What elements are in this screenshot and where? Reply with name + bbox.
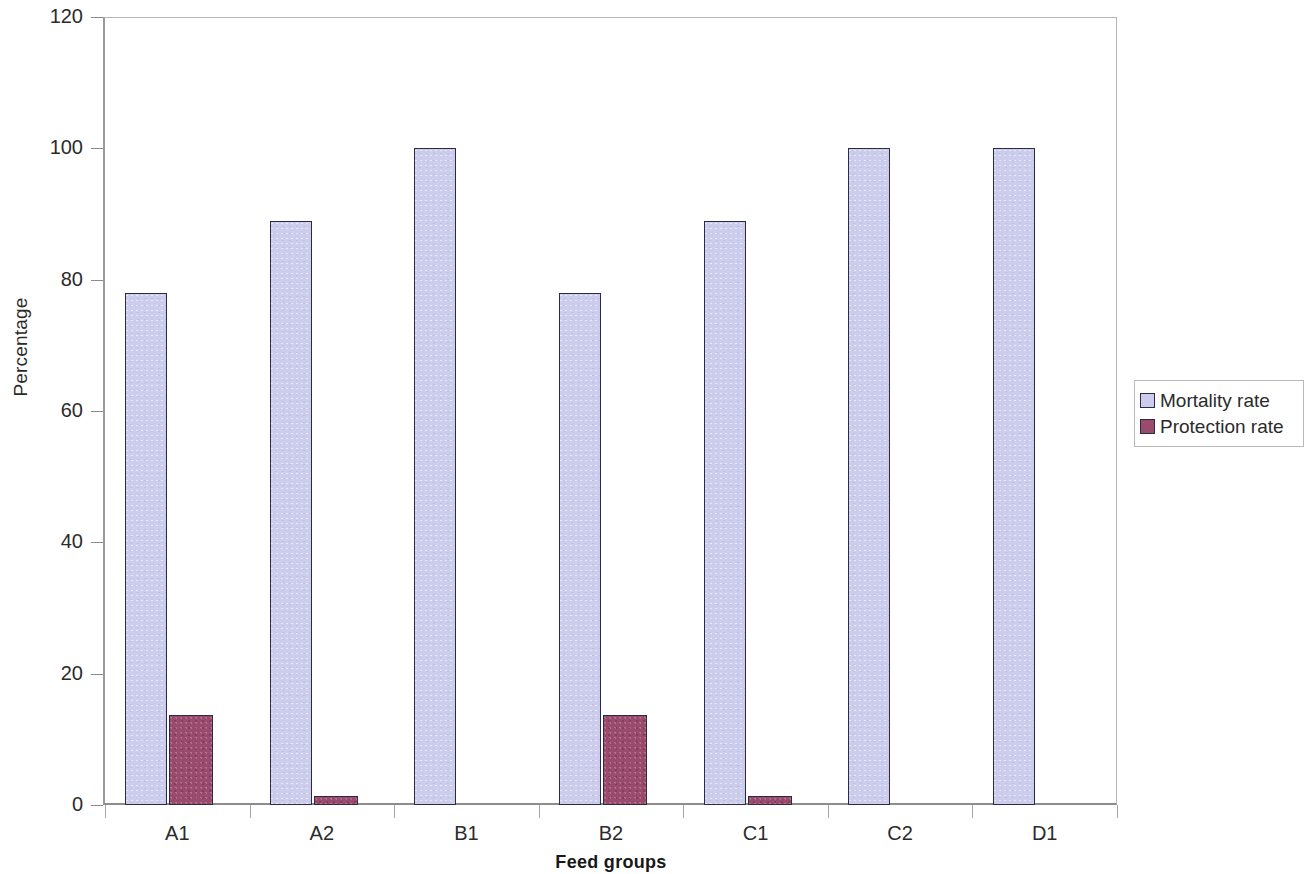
- x-axis-tick-label-a1: A1: [117, 822, 237, 845]
- y-axis-tick-label: 100: [23, 137, 83, 157]
- y-axis-tick-mark: [91, 17, 103, 18]
- x-axis-tick-mark: [250, 805, 251, 818]
- y-axis-tick-mark: [91, 411, 103, 412]
- bar-group: [250, 17, 395, 805]
- y-axis-tick-mark: [91, 674, 103, 675]
- bar-protection-b2: [603, 715, 647, 805]
- bar-mortality-d1: [993, 148, 1035, 805]
- x-axis-tick-labels: A1A2B1B2C1C2D1: [105, 822, 1117, 852]
- legend-item: Mortality rate: [1140, 387, 1299, 413]
- x-axis-tick-mark: [394, 805, 395, 818]
- x-axis-tick-label-d1: D1: [985, 822, 1105, 845]
- legend-item: Protection rate: [1140, 413, 1299, 439]
- legend-item-label: Protection rate: [1160, 417, 1284, 436]
- y-axis-tick-label: 120: [23, 6, 83, 26]
- y-axis-tick-label: 40: [23, 531, 83, 551]
- bar-mortality-b2: [559, 293, 601, 805]
- y-axis-tick-label: 0: [23, 794, 83, 814]
- bar-group: [539, 17, 684, 805]
- bar-group: [105, 17, 250, 805]
- bar-group: [394, 17, 539, 805]
- bar-protection-a2: [314, 796, 358, 805]
- bar-group: [683, 17, 828, 805]
- y-axis-tick-label: 20: [23, 663, 83, 683]
- x-axis-tick-label-a2: A2: [262, 822, 382, 845]
- chart-legend: Mortality rateProtection rate: [1134, 380, 1304, 447]
- bar-group: [828, 17, 973, 805]
- bar-protection-c1: [748, 796, 792, 805]
- bar-mortality-c2: [848, 148, 890, 805]
- x-axis-tick-mark: [1117, 805, 1118, 818]
- y-axis-tick-mark: [91, 542, 103, 543]
- x-axis-tick-mark: [972, 805, 973, 818]
- bar-mortality-a1: [125, 293, 167, 805]
- legend-swatch-icon: [1140, 393, 1155, 408]
- y-axis-tick-label: 80: [23, 269, 83, 289]
- bar-protection-a1: [169, 715, 213, 805]
- bar-group: [972, 17, 1117, 805]
- bar-mortality-a2: [270, 221, 312, 805]
- y-axis-tick-labels: 020406080100120: [23, 0, 83, 874]
- plot-area: [105, 17, 1117, 805]
- y-axis-tick-mark: [91, 148, 103, 149]
- bar-mortality-b1: [414, 148, 456, 805]
- x-axis-tick-label-c1: C1: [696, 822, 816, 845]
- x-axis-tick-mark: [683, 805, 684, 818]
- x-axis-tick-label-b1: B1: [406, 822, 526, 845]
- y-axis-tick-mark: [91, 805, 103, 806]
- legend-swatch-icon: [1140, 419, 1155, 434]
- y-axis-tick-label: 60: [23, 400, 83, 420]
- bar-mortality-c1: [704, 221, 746, 805]
- x-axis-tick-mark: [828, 805, 829, 818]
- x-axis-title: Feed groups: [105, 852, 1117, 873]
- x-axis-tick-mark: [539, 805, 540, 818]
- x-axis-tick-mark: [105, 805, 106, 818]
- x-axis-tick-label-c2: C2: [840, 822, 960, 845]
- x-axis-tick-label-b2: B2: [551, 822, 671, 845]
- legend-item-label: Mortality rate: [1160, 391, 1270, 410]
- y-axis-tick-mark: [91, 280, 103, 281]
- x-axis-tick-marks: [105, 805, 1117, 821]
